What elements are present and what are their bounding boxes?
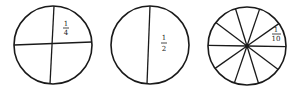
divider-spoke: [247, 9, 260, 46]
circle-tenths: 1 10: [208, 7, 286, 85]
circle-quarters: 1 4: [14, 6, 92, 84]
circle-halves: 1 2: [111, 6, 189, 84]
fraction-numerator: 1: [64, 20, 68, 28]
divider-spoke: [247, 46, 286, 47]
divider-spoke: [216, 23, 247, 46]
divider-spoke: [247, 46, 278, 69]
fraction-denominator: 2: [162, 45, 166, 53]
divider-spoke: [215, 46, 247, 68]
divider-vertical: [50, 6, 54, 84]
divider-vertical: [147, 6, 150, 84]
fraction-denominator: 10: [272, 35, 281, 43]
divider-spoke: [234, 46, 247, 83]
fraction-numerator: 1: [274, 26, 278, 34]
divider-spoke: [247, 46, 259, 83]
fraction-circles-diagram: 1 4 1 2 1 10: [0, 0, 303, 89]
divider-spoke: [208, 45, 247, 46]
fraction-numerator: 1: [162, 34, 166, 42]
divider-spoke: [236, 9, 248, 46]
fraction-denominator: 4: [64, 29, 69, 37]
divider-horizontal: [14, 42, 92, 45]
center-point: [245, 44, 249, 48]
